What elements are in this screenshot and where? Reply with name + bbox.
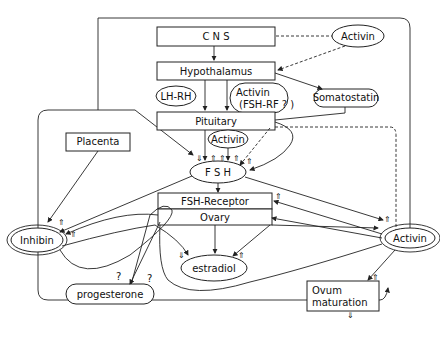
estradiol-label: estradiol (192, 263, 236, 274)
ovum-up-symbol: ⇑ (372, 273, 379, 282)
progesterone-question-2: ? (147, 273, 152, 284)
cns-label: C N S (202, 31, 229, 42)
activin-receptor-arrow (274, 201, 382, 234)
fsh-down-symbol: ⇓ (196, 154, 203, 163)
fsh-up-symbol-3: ⇑ (233, 154, 240, 163)
estradiol-down-symbol: ⇓ (178, 251, 185, 260)
activin-hypo-dashed (278, 46, 345, 70)
ovum-label-1: Ovum (312, 285, 342, 296)
inhibin-estradiol-curve (62, 225, 188, 255)
ovary-label: Ovary (200, 212, 230, 223)
activin-fshrf-label-1: Activin (236, 87, 270, 98)
activin-fshrf-label-2: (FSH-RF ? ) (239, 99, 294, 110)
ovary-progesterone-arrow (130, 222, 160, 284)
activin-right-label: Activin (393, 233, 427, 244)
lhrh-label: LH-RH (160, 91, 191, 102)
receptor-up-symbol: ⇑ (275, 192, 282, 201)
activin-right-up-symbol: ⇑ (384, 215, 391, 224)
estradiol-up-symbol: ⇑ (238, 251, 245, 260)
activin-mid-label: Activin (211, 134, 245, 145)
placenta-label: Placenta (77, 136, 120, 147)
fsh-label: F S H (205, 167, 231, 178)
pituitary-label: Pituitary (195, 116, 237, 127)
fsh-up-symbol-4: ⇑ (246, 157, 253, 166)
inhibin-up-symbol-1: ⇑ (58, 218, 65, 227)
inhibin-label: Inhibin (20, 235, 54, 246)
hypothalamus-label: Hypothalamus (180, 66, 253, 77)
progesterone-label: progesterone (77, 289, 144, 300)
somatostatin-label: Somatostatin (313, 92, 380, 103)
fsh-regulation-diagram: C N S Activin Hypothalamus LH-RH Activin… (0, 0, 440, 340)
progesterone-question-1: ? (116, 271, 121, 282)
ovum-down-symbol: ⇓ (347, 311, 354, 320)
placenta-inhibin-arrow (48, 151, 98, 222)
ovum-label-2: maturation (312, 297, 368, 308)
activin-top-label: Activin (341, 31, 375, 42)
inhibin-loop-progesterone (60, 206, 172, 296)
fsh-receptor-label: FSH-Receptor (181, 196, 250, 207)
